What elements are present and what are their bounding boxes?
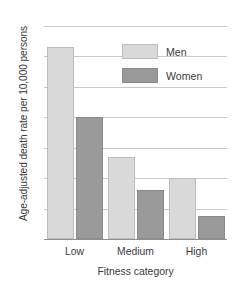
legend-label-men: Men — [166, 46, 187, 58]
gridline — [44, 26, 227, 27]
bar-men-low — [47, 47, 74, 239]
bar-men-medium — [108, 157, 135, 239]
legend-label-women: Women — [166, 70, 202, 82]
x-axis-label-low: Low — [44, 246, 105, 257]
x-axis-line — [44, 239, 227, 240]
x-axis-title: Fitness category — [44, 266, 227, 277]
bar-women-high — [198, 216, 225, 239]
bar-women-low — [76, 117, 103, 239]
legend-swatch-women-icon — [122, 68, 158, 83]
x-axis-label-high: High — [166, 246, 227, 257]
x-axis-label-medium: Medium — [105, 246, 166, 257]
legend-item-men: Men — [122, 44, 202, 59]
legend-swatch-men-icon — [122, 44, 158, 59]
bar-men-high — [169, 178, 196, 239]
legend: Men Women — [122, 44, 202, 92]
bar-women-medium — [137, 190, 164, 239]
bar-chart: Age-adjusted death rate per 10,000 perso… — [0, 0, 237, 288]
legend-item-women: Women — [122, 68, 202, 83]
